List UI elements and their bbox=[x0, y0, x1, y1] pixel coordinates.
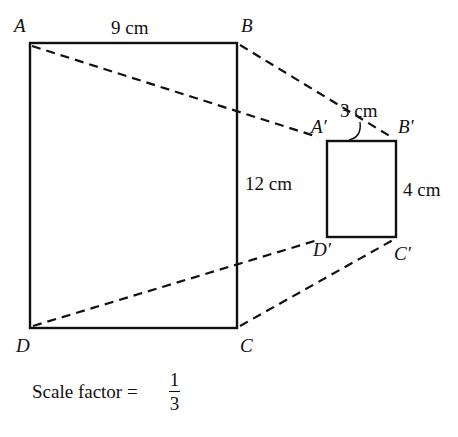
projection-line-d bbox=[33, 240, 318, 326]
length-label-ab: 9 cm bbox=[111, 18, 148, 37]
vertex-label-a-prime: A′ bbox=[311, 117, 327, 136]
diagram-canvas bbox=[0, 0, 458, 437]
rectangle-abcd bbox=[30, 43, 237, 328]
fraction-bar bbox=[169, 391, 180, 392]
vertex-label-c-prime: C′ bbox=[394, 244, 411, 263]
vertex-label-b: B bbox=[241, 16, 253, 35]
rectangle-abcd-prime bbox=[327, 141, 396, 237]
scale-factor-fraction: 1 3 bbox=[169, 370, 180, 413]
fraction-denominator: 3 bbox=[170, 394, 180, 413]
vertex-label-d: D bbox=[16, 336, 30, 355]
vertex-label-a: A bbox=[14, 16, 26, 35]
vertex-label-d-prime: D′ bbox=[313, 240, 331, 259]
length-label-a-prime-b-prime: 3 cm bbox=[340, 101, 377, 120]
scale-factor-label: Scale factor = bbox=[32, 382, 138, 401]
vertex-label-b-prime: B′ bbox=[398, 117, 414, 136]
fraction-numerator: 1 bbox=[170, 370, 180, 389]
length-label-b-prime-c-prime: 4 cm bbox=[403, 180, 440, 199]
projection-line-a bbox=[32, 46, 318, 137]
length-label-bc: 12 cm bbox=[245, 174, 292, 193]
label-pointer-3cm bbox=[349, 122, 360, 140]
vertex-label-c: C bbox=[240, 336, 253, 355]
